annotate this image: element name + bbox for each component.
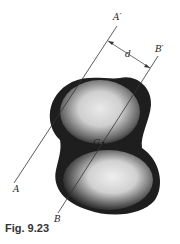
- label-distance-d: d: [125, 49, 131, 59]
- label-a-prime: A′: [112, 12, 122, 22]
- label-b-prime: B′: [154, 44, 164, 54]
- label-centroid-g: G: [93, 138, 100, 148]
- rigid-body-shape: [50, 77, 160, 214]
- label-b: B: [53, 214, 61, 224]
- centroid-point: [102, 142, 104, 144]
- parallel-axis-diagram: A′ A B′ B d G: [0, 0, 180, 244]
- label-a: A: [12, 184, 20, 194]
- figure-caption: Fig. 9.23: [5, 222, 49, 234]
